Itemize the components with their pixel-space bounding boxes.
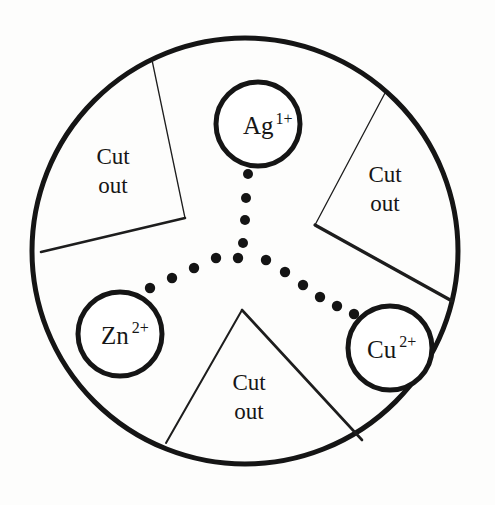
cutout-bottom-label-line2: out [234,399,264,424]
dot-arm-left-dot [189,263,199,273]
figure-canvas: Ag1+Zn2+Cu2+CutoutCutoutCutout [0,0,495,505]
dot-arm-right-dot [261,255,271,265]
dot-arm-right [261,255,359,319]
dot-arm-top-dot [238,238,248,248]
dot-arm-right-dot [332,301,342,311]
cutout-right-label-line1: Cut [368,162,402,187]
dot-arm-right-dot [298,280,308,290]
cutout-bottom-label-line1: Cut [232,370,266,395]
cutout-right-label-line2: out [370,191,400,216]
dot-arm-top-dot [233,253,243,263]
dot-arm-top-dot [243,169,253,179]
cutout-right-edge-b [315,225,452,301]
dot-arm-top-dot [240,215,250,225]
dot-arm-right-dot [315,292,325,302]
dot-arm-left-dot [211,253,221,263]
cutout-top-left-edge-b [41,218,185,252]
dot-arm-top [233,169,253,263]
cutout-bottom-edge-a [166,310,242,443]
cutout-top-left-label-line2: out [98,173,128,198]
cutout-top-left-edge-a [152,60,185,218]
cutout-top-left-label-line1: Cut [96,144,130,169]
dot-arm-left-dot [145,283,155,293]
dot-arms-group [123,169,359,319]
dot-arm-left-dot [167,273,177,283]
dot-arm-right-dot [280,267,290,277]
disc-diagram: Ag1+Zn2+Cu2+CutoutCutoutCutout [0,0,495,505]
dot-arm-top-dot [241,193,251,203]
